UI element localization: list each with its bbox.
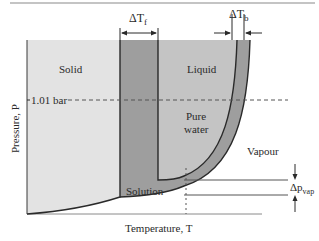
solution-label: Solution	[126, 185, 164, 197]
x-axis-label: Temperature, T	[125, 222, 193, 234]
delta-tb-label: ΔTb	[229, 7, 249, 23]
y-axis-label: Pressure, P	[9, 104, 21, 153]
delta-pvap-label: Δpvap	[290, 181, 314, 196]
liquid-label: Liquid	[187, 63, 217, 75]
arrowhead-icon	[293, 195, 298, 201]
pure-water-label-1: Pure	[186, 110, 206, 122]
delta-tf-label: ΔTf	[129, 11, 147, 27]
arrowhead-icon	[151, 31, 157, 36]
arrowhead-icon	[293, 174, 298, 180]
vapour-label: Vapour	[247, 145, 279, 157]
pure-water-label-2: water	[184, 123, 209, 135]
solid-label: Solid	[59, 63, 83, 75]
arrowhead-icon	[121, 31, 127, 36]
phase-diagram: Solid Liquid Pure water Vapour Solution …	[0, 0, 319, 241]
arrowhead-icon	[245, 31, 251, 36]
reference-pressure-label: 1.01 bar	[31, 94, 67, 106]
arrowhead-icon	[225, 31, 231, 36]
